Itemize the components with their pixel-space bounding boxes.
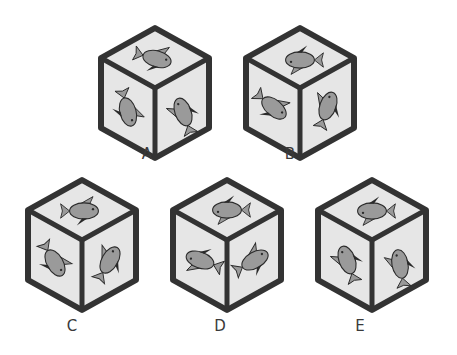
cube-option-c[interactable] (22, 176, 142, 316)
cube-option-e[interactable] (312, 176, 432, 316)
option-label-b: B (280, 145, 300, 163)
cube-option-d[interactable] (167, 176, 287, 316)
cube-option-a[interactable] (95, 24, 215, 164)
option-label-c: C (62, 317, 82, 335)
option-label-a: A (137, 145, 157, 163)
cube-option-b[interactable] (240, 24, 360, 164)
option-label-e: E (350, 317, 370, 335)
option-label-d: D (210, 317, 230, 335)
